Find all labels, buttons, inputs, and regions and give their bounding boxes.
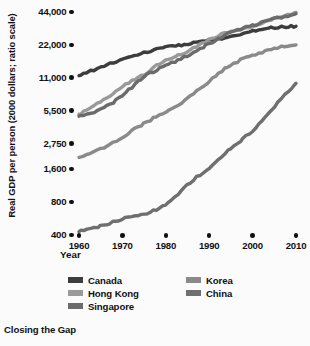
- x-tick-dot-2000: [250, 233, 255, 238]
- legend-swatch: [68, 277, 83, 283]
- y-tick-800: 800: [51, 196, 74, 208]
- legend-label: China: [206, 288, 232, 299]
- y-tick-22000: 22,000: [38, 39, 74, 51]
- y-tick-label: 11,000: [39, 72, 67, 84]
- y-tick-5500: 5,500: [43, 105, 74, 117]
- legend-item-hong-kong[interactable]: Hong Kong: [68, 287, 139, 298]
- legend-swatch: [186, 290, 201, 296]
- x-tick-dot-2010: [294, 233, 299, 238]
- y-tick-label: 1,600: [43, 163, 66, 175]
- y-tick-label: 5,500: [43, 105, 66, 117]
- x-tick-dot-1960: [77, 233, 82, 238]
- y-tick-label: 44,000: [38, 6, 66, 18]
- legend-swatch: [68, 290, 83, 296]
- chart-legend: CanadaHong KongSingaporeKoreaChina: [68, 274, 306, 312]
- legend-item-canada[interactable]: Canada: [68, 274, 122, 285]
- legend-swatch: [186, 277, 201, 283]
- legend-swatch: [68, 303, 83, 309]
- x-tick-label: 1980: [156, 240, 177, 251]
- y-tick-1600: 1,600: [43, 163, 74, 175]
- legend-item-china[interactable]: China: [186, 287, 232, 298]
- y-tick-11000: 11,000: [39, 72, 74, 84]
- chart-figure: Real GDP per person (2000 dollars; ratio…: [0, 0, 310, 346]
- legend-label: Korea: [206, 275, 233, 286]
- line-china: [79, 83, 296, 231]
- x-tick-label: 2000: [242, 240, 263, 251]
- legend-item-singapore[interactable]: Singapore: [68, 300, 134, 311]
- y-tick-label: 800: [51, 196, 66, 208]
- x-tick-label: 1990: [199, 240, 220, 251]
- series-lines: [74, 4, 306, 237]
- legend-label: Singapore: [88, 301, 134, 312]
- legend-label: Hong Kong: [88, 288, 139, 299]
- y-tick-44000: 44,000: [38, 6, 74, 18]
- x-tick-dot-1970: [120, 233, 125, 238]
- x-tick-label: 2010: [286, 240, 307, 251]
- x-tick-dot-1980: [164, 233, 169, 238]
- x-tick-label: 1970: [112, 240, 133, 251]
- y-axis-ticks: 4008001,6002,7505,50011,00022,00044,000: [0, 0, 74, 240]
- legend-label: Canada: [88, 275, 122, 286]
- legend-item-korea[interactable]: Korea: [186, 274, 233, 285]
- y-tick-2750: 2,750: [43, 138, 74, 150]
- x-axis-ticks: 196019701980199020002010: [0, 228, 310, 262]
- y-tick-label: 22,000: [38, 39, 66, 51]
- x-axis-title: Year: [60, 249, 81, 260]
- y-tick-label: 2,750: [43, 138, 66, 150]
- x-tick-dot-1990: [207, 233, 212, 238]
- chart-caption: Closing the Gap: [4, 324, 76, 335]
- plot-area: [74, 4, 306, 237]
